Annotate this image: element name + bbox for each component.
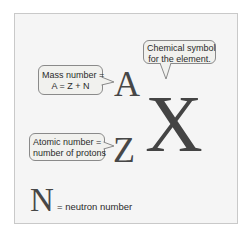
atomic-number-symbol: Z xyxy=(113,132,135,168)
atomic-number-callout-line2: number of protons xyxy=(33,148,101,159)
chemical-symbol-callout-line2: for the element. xyxy=(147,54,212,65)
mass-number-callout: Mass number = A = Z + N xyxy=(38,65,103,95)
chemical-symbol-pointer xyxy=(158,62,174,82)
chemical-symbol-callout: Chemical symbol for the element. xyxy=(143,40,216,64)
neutron-label: = neutron number xyxy=(57,201,132,212)
atomic-number-callout: Atomic number = number of protons xyxy=(29,133,105,161)
element-symbol: X xyxy=(145,84,203,164)
mass-number-callout-line2: A = Z + N xyxy=(42,81,99,92)
mass-number-callout-line1: Mass number = xyxy=(42,70,99,81)
neutron-symbol: N xyxy=(30,184,54,217)
chemical-symbol-callout-line1: Chemical symbol xyxy=(147,43,212,54)
atomic-number-callout-line1: Atomic number = xyxy=(33,137,101,148)
mass-number-symbol: A xyxy=(114,66,140,102)
